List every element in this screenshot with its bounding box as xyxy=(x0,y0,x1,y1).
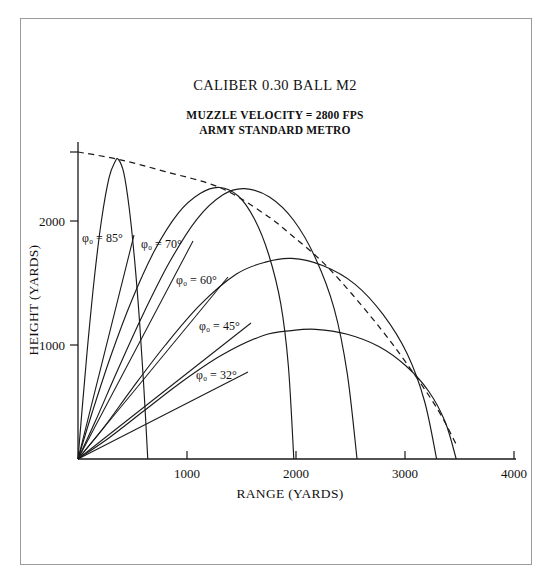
x-axis-tick-labels: 1000 2000 3000 4000 xyxy=(174,466,527,481)
annotation-label-45: φ₀ = 45° xyxy=(199,319,240,333)
chart-title: CALIBER 0.30 BALL M2 xyxy=(193,77,357,93)
annotation-label-70: φ₀ = 70° xyxy=(141,237,182,251)
y-axis-ticks xyxy=(70,152,78,345)
annotation-label-32: φ₀ = 32° xyxy=(196,368,237,382)
trajectory-45 xyxy=(78,258,437,459)
annotation-label-60: φ₀ = 60° xyxy=(176,273,217,287)
trajectory-85 xyxy=(78,158,148,459)
y-axis-title: HEIGHT (YARDS) xyxy=(26,245,41,356)
trajectory-32 xyxy=(78,329,456,459)
chart-subtitle-metro: ARMY STANDARD METRO xyxy=(199,124,350,136)
y-tick-label-2000: 2000 xyxy=(39,214,65,229)
x-tick-label-3000: 3000 xyxy=(392,466,418,481)
x-tick-label-2000: 2000 xyxy=(283,466,309,481)
y-tick-label-1000: 1000 xyxy=(39,338,65,353)
annotation-label-85: φ₀ = 85° xyxy=(82,231,123,245)
x-tick-label-1000: 1000 xyxy=(174,466,200,481)
y-axis-tick-labels: 1000 2000 xyxy=(39,214,65,353)
annotation-labels: φ₀ = 85° φ₀ = 70° φ₀ = 60° φ₀ = 45° φ₀ =… xyxy=(82,231,240,382)
x-tick-label-4000: 4000 xyxy=(501,466,527,481)
figure-page: CALIBER 0.30 BALL M2 MUZZLE VELOCITY = 2… xyxy=(0,0,551,585)
ballistic-trajectory-chart: CALIBER 0.30 BALL M2 MUZZLE VELOCITY = 2… xyxy=(0,0,551,585)
leader-line-45 xyxy=(78,323,251,459)
x-axis-title: RANGE (YARDS) xyxy=(236,486,343,501)
chart-subtitle-velocity: MUZZLE VELOCITY = 2800 FPS xyxy=(186,109,363,121)
x-axis-ticks xyxy=(187,451,514,459)
leader-line-32 xyxy=(78,372,248,459)
